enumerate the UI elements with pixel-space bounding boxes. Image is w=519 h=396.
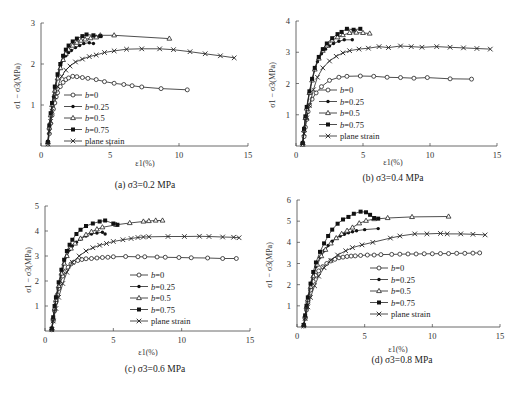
open-circle-marker-icon — [471, 251, 475, 255]
open-circle-marker-icon — [478, 251, 482, 255]
open-circle-marker-icon — [399, 76, 403, 80]
filled-square-marker-icon — [61, 54, 65, 58]
cross-marker-icon — [315, 75, 320, 80]
filled-square-marker-icon — [340, 30, 344, 34]
open-circle-marker-icon — [341, 255, 345, 259]
cross-marker-icon — [350, 245, 355, 250]
cross-marker-icon — [77, 254, 82, 259]
filled-circle-legend-icon — [377, 278, 380, 281]
filled-square-marker-icon — [103, 219, 107, 223]
open-circle-marker-icon — [372, 74, 376, 78]
filled-square-marker-icon — [322, 241, 326, 245]
open-circle-marker-icon — [422, 252, 426, 256]
x-tick-label: 0 — [43, 335, 47, 345]
filled-circle-marker-icon — [92, 42, 95, 45]
filled-square-marker-icon — [313, 66, 317, 70]
series-plane-strain — [300, 44, 492, 147]
filled-square-marker-icon — [325, 42, 329, 46]
open-circle-marker-icon — [221, 257, 225, 261]
cross-marker-icon — [64, 68, 69, 73]
filled-circle-legend-icon — [326, 100, 329, 103]
legend: b=0b=0.25b=0.5b=0.75plane strain — [370, 263, 431, 319]
filled-square-marker-icon — [346, 215, 350, 219]
open-circle-marker-icon — [140, 85, 144, 89]
legend-item: b=0.5 — [319, 108, 360, 118]
filled-circle-marker-icon — [103, 232, 106, 235]
open-circle-marker-icon — [317, 269, 321, 273]
legend-label: b=0.5 — [340, 108, 360, 118]
legend-item: b=0 — [370, 263, 404, 273]
filled-square-marker-icon — [115, 223, 119, 227]
open-circle-marker-icon — [430, 252, 434, 256]
filled-square-marker-icon — [84, 224, 88, 228]
x-tick-label: 10 — [426, 150, 435, 160]
legend-label: b=0.75 — [340, 120, 364, 130]
filled-square-marker-icon — [317, 55, 321, 59]
legend-item: b=0 — [130, 270, 164, 280]
open-circle-marker-icon — [406, 252, 410, 256]
legend-label: b=0.5 — [85, 113, 105, 123]
legend: b=0b=0.25b=0.5b=0.75plane strain — [319, 85, 380, 141]
legend-item: b=0.25 — [370, 275, 415, 285]
filled-square-marker-icon — [65, 249, 69, 253]
legend-item: b=0 — [64, 90, 98, 100]
open-circle-legend-icon — [137, 273, 141, 277]
open-triangle-marker-icon — [361, 30, 366, 34]
open-circle-marker-icon — [106, 255, 110, 259]
legend-label: b=0.75 — [85, 125, 109, 135]
y-tick-label: 3 — [35, 251, 39, 261]
legend-item: plane strain — [64, 136, 125, 146]
legend-label: b=0.25 — [340, 97, 364, 107]
legend-label: b=0 — [151, 270, 164, 280]
legend-label: b=0 — [85, 90, 98, 100]
open-circle-marker-icon — [390, 252, 394, 256]
filled-square-marker-icon — [311, 270, 315, 274]
open-circle-marker-icon — [163, 255, 167, 259]
filled-square-marker-icon — [330, 228, 334, 232]
open-circle-marker-icon — [86, 76, 90, 80]
y-axis-label: σ1 − σ3(MPa) — [13, 63, 22, 109]
filled-circle-marker-icon — [88, 41, 91, 44]
open-circle-marker-icon — [447, 252, 451, 256]
open-circle-marker-icon — [385, 75, 389, 79]
filled-circle-marker-icon — [95, 231, 98, 234]
chart-panel-b: (b) σ3=0.4 MPa ε1(%) σ1 − σ3(MPa) 051015… — [268, 16, 501, 184]
filled-square-marker-icon — [376, 217, 380, 221]
filled-square-legend-icon — [71, 128, 75, 132]
legend-item: b=0.25 — [319, 97, 364, 107]
filled-square-marker-icon — [336, 32, 340, 36]
filled-square-marker-icon — [111, 222, 115, 226]
y-tick-label: 1 — [286, 110, 290, 120]
open-circle-marker-icon — [122, 83, 126, 87]
x-axis-label: ε1(%) — [138, 348, 158, 357]
legend-label: b=0.5 — [151, 293, 171, 303]
open-triangle-marker-icon — [385, 215, 390, 219]
open-circle-marker-icon — [111, 255, 115, 259]
filled-square-marker-icon — [58, 62, 62, 66]
x-tick-label: 5 — [111, 335, 115, 345]
legend-item: b=0.25 — [130, 282, 175, 292]
cross-marker-icon — [59, 74, 64, 79]
cross-marker-icon — [321, 66, 326, 71]
open-circle-marker-icon — [345, 255, 349, 259]
open-circle-marker-icon — [412, 76, 416, 80]
y-tick-label: 1 — [35, 301, 39, 311]
open-circle-marker-icon — [112, 81, 116, 85]
x-tick-label: 10 — [177, 335, 186, 345]
cross-marker-icon — [341, 51, 346, 56]
open-circle-marker-icon — [124, 255, 128, 259]
open-circle-marker-icon — [94, 78, 98, 82]
legend-label: b=0 — [391, 263, 404, 273]
open-circle-marker-icon — [80, 258, 84, 262]
y-tick-label: 3 — [286, 47, 290, 57]
legend-label: b=0.25 — [391, 275, 415, 285]
filled-square-marker-icon — [62, 258, 66, 262]
x-tick-label: 10 — [428, 331, 437, 341]
y-tick-label: 4 — [287, 237, 292, 247]
x-tick-label: 15 — [244, 150, 253, 160]
legend-label: plane strain — [391, 309, 431, 319]
filled-circle-legend-icon — [71, 105, 74, 108]
legend-label: plane strain — [340, 131, 380, 141]
open-circle-legend-icon — [377, 266, 381, 270]
legend: b=0b=0.25b=0.5b=0.75plane strain — [130, 270, 191, 326]
